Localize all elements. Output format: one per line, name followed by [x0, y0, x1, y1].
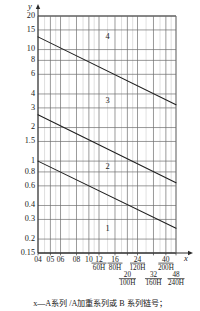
- x-tick-sublabel: 60H: [93, 264, 105, 272]
- y-axis-arrowhead: [36, 4, 40, 9]
- y-tick-label: 10: [27, 44, 35, 53]
- x-tick-sublabel: 120H: [130, 264, 146, 272]
- boundary-line: [38, 115, 176, 183]
- y-tick-label: 0.15: [21, 248, 35, 257]
- x-axis-arrowhead: [188, 251, 193, 255]
- x-tick-label: 08: [73, 255, 81, 264]
- boundary-curves: [38, 37, 176, 228]
- x-tick-label: 06: [57, 255, 65, 264]
- x-tick-sublabel-secondary: 100H: [119, 279, 135, 287]
- x-axis-tick-labels: 04050608101260H1680H24120H40200H20100H32…: [34, 253, 184, 287]
- caption-text: x—A系列 /A加重系列或 B 系列链号；: [33, 299, 167, 308]
- y-tick-label: 0.8: [25, 167, 35, 176]
- boundary-line: [38, 37, 176, 105]
- y-tick-label: 6: [31, 69, 35, 78]
- region-label: 3: [105, 96, 109, 105]
- x-axis-name: x: [183, 253, 188, 263]
- y-tick-label: 4: [31, 89, 35, 98]
- x-tick-sublabel-secondary: 160H: [145, 279, 161, 287]
- y-axis-tick-labels: 201510864321.510.80.60.40.30.20.15: [21, 11, 35, 257]
- y-tick-label: 1: [31, 156, 35, 165]
- x-tick-label: 04: [34, 255, 42, 264]
- y-tick-label: 2: [31, 122, 35, 131]
- y-tick-label: 0.3: [25, 214, 35, 223]
- x-tick-label: 10: [85, 255, 93, 264]
- x-tick-label: 24: [134, 255, 142, 264]
- chart-canvas: 201510864321.510.80.60.40.30.20.15 04050…: [0, 0, 200, 311]
- y-tick-label: 20: [27, 11, 35, 20]
- region-label: 4: [105, 32, 110, 41]
- x-tick-label: 16: [111, 255, 119, 264]
- x-tick-label: 40: [162, 255, 170, 264]
- major-gridlines: [38, 16, 176, 253]
- region-label: 1: [105, 224, 109, 233]
- y-tick-label: 1.5: [25, 136, 35, 145]
- y-axis-name: y: [27, 1, 32, 11]
- chain-selection-chart: 201510864321.510.80.60.40.30.20.15 04050…: [0, 0, 200, 311]
- x-tick-label-secondary: 32: [150, 271, 158, 279]
- x-tick-label-secondary: 48: [172, 271, 180, 279]
- y-tick-label: 0.2: [25, 234, 35, 243]
- y-tick-label: 15: [27, 25, 35, 34]
- figure-caption: x—A系列 /A加重系列或 B 系列链号；: [0, 300, 200, 309]
- x-tick-label-secondary: 20: [124, 271, 132, 279]
- x-tick-sublabel-secondary: 240H: [168, 279, 184, 287]
- x-tick-sublabel: 80H: [109, 264, 121, 272]
- region-label: 2: [105, 162, 109, 171]
- region-labels: 4321: [105, 32, 110, 233]
- minor-gridlines: [45, 16, 172, 253]
- x-tick-label: 12: [95, 255, 103, 264]
- y-tick-label: 8: [31, 55, 35, 64]
- axes: [36, 4, 193, 255]
- y-tick-label: 0.4: [25, 200, 35, 209]
- y-tick-label: 0.6: [25, 181, 35, 190]
- y-tick-label: 3: [31, 103, 35, 112]
- x-tick-label: 05: [47, 255, 55, 264]
